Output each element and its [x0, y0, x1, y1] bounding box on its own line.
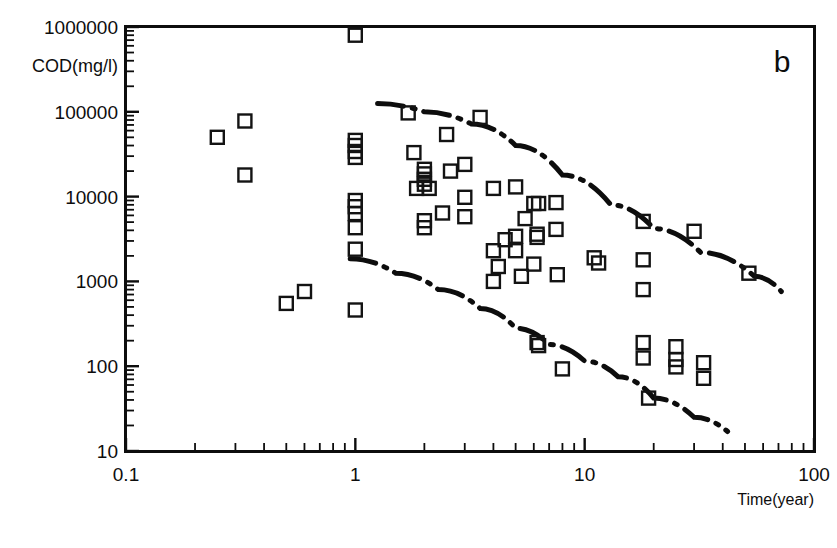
data-point-markers	[211, 29, 756, 405]
caption-fragment	[0, 530, 837, 548]
panel-letter: b	[774, 45, 791, 78]
data-point-marker	[592, 257, 605, 270]
data-point-marker	[637, 253, 650, 266]
upper-bound-curve	[378, 104, 782, 292]
lower-bound-curve	[350, 259, 727, 432]
data-point-marker	[637, 283, 650, 296]
data-point-marker	[556, 362, 569, 375]
data-point-marker	[669, 340, 682, 353]
data-point-marker	[458, 191, 471, 204]
y-axis-title: COD(mg/l)	[32, 56, 118, 76]
data-point-marker	[637, 352, 650, 365]
data-point-marker	[423, 182, 436, 195]
envelope-curves	[350, 104, 781, 432]
data-point-marker	[588, 251, 601, 264]
data-point-marker	[532, 197, 545, 210]
plot-frame	[126, 27, 815, 452]
data-point-marker	[238, 115, 251, 128]
data-point-marker	[688, 225, 701, 238]
data-point-marker	[238, 169, 251, 182]
data-point-marker	[697, 356, 710, 369]
data-point-marker	[531, 228, 544, 241]
y-tick-label: 1000000	[44, 17, 118, 38]
y-axis-ticks	[126, 27, 139, 451]
y-tick-label: 10000	[65, 187, 118, 208]
data-point-marker	[551, 268, 564, 281]
data-point-marker	[509, 180, 522, 193]
data-point-marker	[527, 197, 540, 210]
y-axis-tick-labels: 101001000100001000001000000	[44, 17, 118, 462]
data-point-marker	[349, 304, 362, 317]
x-tick-label: 100	[798, 464, 830, 485]
x-tick-label: 0.1	[113, 464, 139, 485]
data-point-marker	[515, 270, 528, 283]
data-point-marker	[211, 131, 224, 144]
x-axis-tick-labels: 0.1110100	[113, 464, 830, 485]
x-axis-ticks	[126, 438, 814, 451]
data-point-marker	[550, 196, 563, 209]
data-point-marker	[487, 275, 500, 288]
y-tick-label: 100000	[55, 102, 118, 123]
data-point-marker	[349, 29, 362, 42]
data-point-marker	[527, 258, 540, 271]
x-axis-title: Time(year)	[737, 491, 814, 508]
x-tick-label: 10	[574, 464, 595, 485]
data-point-marker	[280, 297, 293, 310]
data-point-marker	[349, 221, 362, 234]
data-point-marker	[410, 182, 423, 195]
y-tick-label: 100	[86, 356, 118, 377]
data-point-marker	[436, 207, 449, 220]
y-tick-label: 10	[97, 441, 118, 462]
data-point-marker	[550, 223, 563, 236]
data-point-marker	[407, 146, 420, 159]
data-point-marker	[458, 210, 471, 223]
data-point-marker	[440, 128, 453, 141]
data-point-marker	[519, 212, 532, 225]
cod-vs-time-scatter-chart: 101001000100001000001000000 0.1110100 CO…	[0, 0, 837, 548]
data-point-marker	[487, 182, 500, 195]
figure-panel-b: 101001000100001000001000000 0.1110100 CO…	[0, 0, 837, 548]
data-point-marker	[458, 158, 471, 171]
data-point-marker	[492, 260, 505, 273]
data-point-marker	[697, 372, 710, 385]
data-point-marker	[531, 231, 544, 244]
data-point-marker	[444, 165, 457, 178]
data-point-marker	[349, 243, 362, 256]
y-tick-label: 1000	[76, 271, 118, 292]
data-point-marker	[637, 336, 650, 349]
x-tick-label: 1	[350, 464, 361, 485]
data-point-marker	[298, 285, 311, 298]
